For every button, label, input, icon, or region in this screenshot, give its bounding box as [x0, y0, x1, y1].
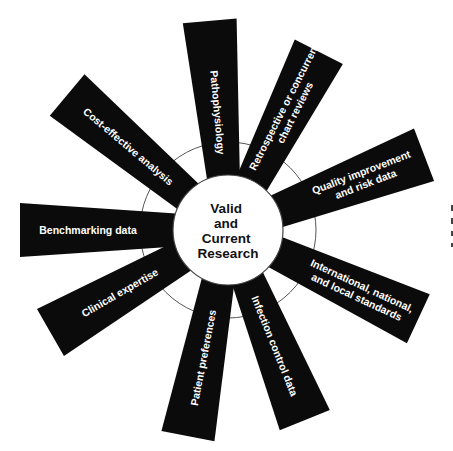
- center-label-line-4: Research: [198, 246, 259, 261]
- spoke-label: Benchmarking data: [39, 224, 137, 236]
- center-label-line-3: Current: [202, 231, 251, 246]
- center-label-line-1: Valid: [210, 201, 242, 216]
- spoke-label-line: Benchmarking data: [39, 224, 137, 236]
- research-wheel-diagram: PathophysiologyRetrospective or concurre…: [0, 0, 453, 451]
- center-label-line-2: and: [214, 216, 238, 231]
